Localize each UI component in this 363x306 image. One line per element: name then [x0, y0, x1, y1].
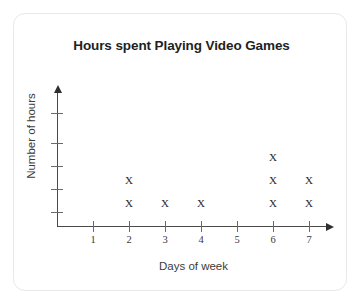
x-axis-tick — [93, 221, 94, 232]
x-axis-tick-label: 7 — [299, 234, 319, 245]
data-point-mark: X — [301, 196, 317, 210]
plot-area: 1234567 XXXXXXXXX Days of week Number of… — [0, 0, 363, 306]
data-point-mark: X — [265, 150, 281, 164]
x-axis-tick-label: 6 — [263, 234, 283, 245]
data-point-mark: X — [121, 173, 137, 187]
y-axis-tick — [51, 189, 63, 190]
data-point-mark: X — [121, 196, 137, 210]
x-axis-tick-label: 2 — [119, 234, 139, 245]
y-axis-arrow-icon — [54, 85, 62, 93]
y-axis-title: Number of hours — [25, 81, 37, 191]
x-axis-tick-label: 4 — [191, 234, 211, 245]
x-axis-tick-label: 1 — [83, 234, 103, 245]
x-axis-tick — [201, 221, 202, 232]
data-point-mark: X — [157, 196, 173, 210]
y-axis-tick — [51, 113, 63, 114]
y-axis-tick — [51, 212, 63, 213]
x-axis-arrow-icon — [326, 223, 334, 231]
data-point-mark: X — [265, 196, 281, 210]
chart-screenshot: Hours spent Playing Video Games 1234567 … — [0, 0, 363, 306]
x-axis-tick — [165, 221, 166, 232]
x-axis-tick-label: 3 — [155, 234, 175, 245]
x-axis-tick — [237, 221, 238, 232]
x-axis-tick — [273, 221, 274, 232]
y-axis-tick — [51, 166, 63, 167]
x-axis-line — [57, 226, 330, 227]
x-axis-tick-label: 5 — [227, 234, 247, 245]
data-point-mark: X — [265, 173, 281, 187]
data-point-mark: X — [301, 173, 317, 187]
x-axis-title: Days of week — [57, 260, 330, 272]
x-axis-tick — [129, 221, 130, 232]
y-axis-tick — [51, 143, 63, 144]
x-axis-tick — [309, 221, 310, 232]
data-point-mark: X — [193, 196, 209, 210]
